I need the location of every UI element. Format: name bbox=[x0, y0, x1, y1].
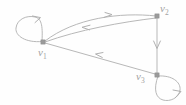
node-v1-label-subscript: 1 bbox=[43, 52, 47, 61]
node-v3-label-subscript: 3 bbox=[141, 76, 145, 85]
edge-v3-self-loop bbox=[156, 76, 181, 101]
edge-v1-to-v2-path bbox=[45, 15, 156, 41]
node-v1-dot bbox=[41, 40, 45, 44]
node-v2-label: v2 bbox=[160, 2, 169, 17]
node-v2-label-subscript: 2 bbox=[165, 8, 169, 17]
arrowhead-v2-to-v1 bbox=[82, 25, 90, 30]
node-v3-dot bbox=[155, 73, 159, 77]
arrowhead-v3-self-loop bbox=[173, 90, 181, 98]
edge-v2-to-v1-path bbox=[45, 18, 156, 42]
node-v3-label: v3 bbox=[136, 70, 145, 85]
node-v2-dot bbox=[155, 14, 159, 18]
arrowhead-v3-to-v1 bbox=[96, 53, 104, 58]
edge-v1-self-loop bbox=[16, 16, 42, 42]
edge-v2-to-v1 bbox=[45, 18, 156, 42]
graph-canvas: v1 v2 v3 bbox=[0, 0, 186, 105]
node-v2: v2 bbox=[155, 2, 169, 18]
node-v1-label: v1 bbox=[38, 46, 47, 61]
edge-v2-to-v3 bbox=[154, 18, 161, 74]
edge-v1-self-loop-path bbox=[16, 16, 42, 41]
graph-diagram: v1 v2 v3 bbox=[0, 0, 186, 105]
